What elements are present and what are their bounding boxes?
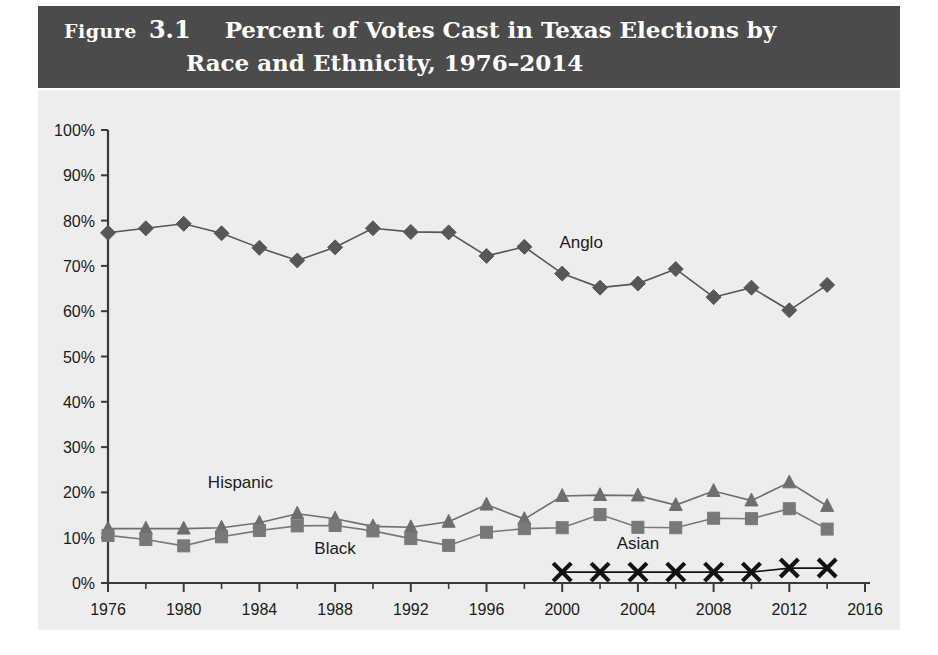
figure-root: Figure 3.1 Percent of Votes Cast in Texa… xyxy=(0,0,938,655)
series-label-black: Black xyxy=(314,539,356,558)
chart-series-asian xyxy=(553,559,836,581)
data-point-diamond xyxy=(441,225,456,240)
y-axis-tick-label: 80% xyxy=(63,213,95,230)
x-axis-tick-label: 2008 xyxy=(696,601,732,618)
figure-word-label: Figure xyxy=(64,20,137,42)
y-axis-tick-label: 100% xyxy=(54,122,95,139)
y-axis-tick-label: 30% xyxy=(63,439,95,456)
data-point-square xyxy=(216,531,228,543)
data-point-triangle xyxy=(594,488,607,501)
y-axis-tick-label: 40% xyxy=(63,394,95,411)
data-point-square xyxy=(745,513,757,525)
y-axis-tick-label: 60% xyxy=(63,303,95,320)
data-point-triangle xyxy=(177,521,190,534)
data-point-diamond xyxy=(403,224,418,239)
data-point-diamond xyxy=(593,280,608,295)
chart-canvas: 0%10%20%30%40%50%60%70%80%90%100%1976198… xyxy=(38,90,900,630)
x-axis-tick-label: 1992 xyxy=(393,601,429,618)
data-point-diamond xyxy=(820,277,835,292)
series-label-anglo: Anglo xyxy=(559,233,602,252)
series-label-hispanic: Hispanic xyxy=(208,473,274,492)
data-point-diamond xyxy=(555,266,570,281)
data-point-triangle xyxy=(442,514,455,527)
data-point-square xyxy=(367,525,379,537)
x-axis-tick-label: 1996 xyxy=(469,601,505,618)
x-axis-tick-label: 1980 xyxy=(166,601,202,618)
data-point-square xyxy=(405,533,417,545)
figure-title-line-2: Race and Ethnicity, 1976–2014 xyxy=(186,49,884,76)
y-axis-tick-label: 20% xyxy=(63,484,95,501)
x-axis-tick-label: 1976 xyxy=(90,601,126,618)
y-axis-tick-label: 50% xyxy=(63,349,95,366)
x-axis-tick-label: 2016 xyxy=(847,601,883,618)
data-point-square xyxy=(443,539,455,551)
data-point-triangle xyxy=(291,506,304,519)
data-point-diamond xyxy=(138,221,153,236)
data-point-square xyxy=(481,526,493,538)
y-axis-tick-label: 10% xyxy=(63,530,95,547)
figure-number-label: 3.1 xyxy=(149,15,191,44)
x-axis-tick-label: 2000 xyxy=(544,601,580,618)
data-point-square xyxy=(518,523,530,535)
data-point-square xyxy=(632,521,644,533)
data-point-triangle xyxy=(821,499,834,512)
data-point-triangle xyxy=(783,475,796,488)
data-point-square xyxy=(556,522,568,534)
chart-plot-panel: 0%10%20%30%40%50%60%70%80%90%100%1976198… xyxy=(38,90,900,630)
figure-header-band: Figure 3.1 Percent of Votes Cast in Texa… xyxy=(38,6,900,88)
chart-series-anglo xyxy=(101,216,835,318)
data-point-diamond xyxy=(214,226,229,241)
data-point-diamond xyxy=(252,240,267,255)
data-point-triangle xyxy=(707,484,720,497)
x-axis-tick-label: 1984 xyxy=(242,601,278,618)
data-point-square xyxy=(783,503,795,515)
data-point-square xyxy=(253,524,265,536)
data-point-diamond xyxy=(782,303,797,318)
data-point-triangle xyxy=(480,497,493,510)
series-label-asian: Asian xyxy=(617,534,660,553)
data-point-diamond xyxy=(517,239,532,254)
data-point-diamond xyxy=(365,221,380,236)
data-point-square xyxy=(821,523,833,535)
data-point-square xyxy=(329,519,341,531)
figure-title-line-1: Percent of Votes Cast in Texas Elections… xyxy=(225,16,777,43)
y-axis-tick-label: 0% xyxy=(72,575,95,592)
data-point-diamond xyxy=(744,280,759,295)
data-point-square xyxy=(291,520,303,532)
data-point-diamond xyxy=(176,216,191,231)
data-point-triangle xyxy=(556,489,569,502)
data-point-square xyxy=(708,512,720,524)
data-point-square xyxy=(140,534,152,546)
data-point-diamond xyxy=(101,225,116,240)
data-point-diamond xyxy=(328,240,343,255)
data-point-diamond xyxy=(479,248,494,263)
y-axis-tick-label: 70% xyxy=(63,258,95,275)
data-point-diamond xyxy=(290,253,305,268)
figure-header-row-1: Figure 3.1 Percent of Votes Cast in Texa… xyxy=(64,15,884,44)
x-axis-tick-label: 2004 xyxy=(620,601,656,618)
x-axis-tick-label: 2012 xyxy=(772,601,808,618)
data-point-diamond xyxy=(668,262,683,277)
data-point-square xyxy=(594,509,606,521)
data-point-diamond xyxy=(706,290,721,305)
data-point-square xyxy=(102,529,114,541)
data-point-triangle xyxy=(631,488,644,501)
y-axis-tick-label: 90% xyxy=(63,167,95,184)
data-point-square xyxy=(670,522,682,534)
data-point-diamond xyxy=(630,276,645,291)
data-point-triangle xyxy=(139,521,152,534)
x-axis-tick-label: 1988 xyxy=(317,601,353,618)
data-point-square xyxy=(178,540,190,552)
